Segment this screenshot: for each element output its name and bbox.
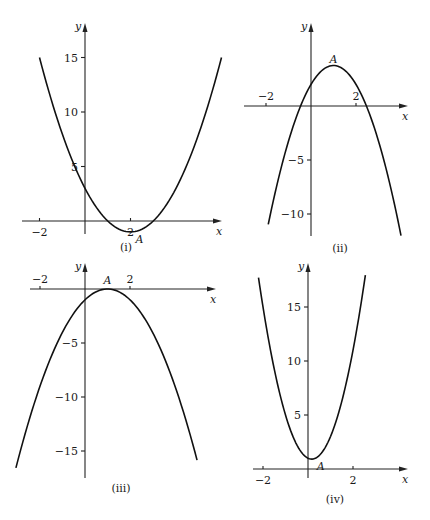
parabola-curve [16,289,197,468]
x-tick-label: −2 [255,474,271,487]
point-a-label: A [103,274,112,287]
x-axis-arrow-icon [213,219,222,224]
x-axis-arrow-icon [399,467,408,472]
point-a-label: A [316,460,325,473]
graph-panel-3: xy−22−5−10−15A(iii) [16,260,217,495]
x-tick-label: −2 [32,273,48,286]
y-axis-arrow-icon [83,23,88,32]
graph-panel-1: xy−2251015A(i) [22,20,223,254]
point-a-label: A [329,53,338,66]
y-tick-label: 15 [64,52,78,65]
y-tick-label: −10 [281,208,304,221]
x-axis-arrow-icon [399,104,408,109]
x-axis-label: x [402,473,409,486]
graph-panel-2: xy−22−5−10A(ii) [244,20,409,255]
x-axis-label: x [402,110,409,123]
x-tick-label: 2 [350,474,357,487]
y-tick-label: −5 [62,337,78,350]
panel-label: (iv) [326,493,344,506]
x-axis-label: x [210,293,217,306]
panel-label: (iii) [111,482,130,495]
y-axis-label: y [74,260,82,273]
x-tick-label: 2 [127,273,134,286]
y-axis-label: y [74,20,82,33]
y-tick-label: 5 [294,409,301,422]
point-a-label: A [135,233,144,246]
y-tick-label: −5 [288,154,304,167]
y-tick-label: 15 [287,301,301,314]
y-axis-label: y [297,260,305,273]
y-axis-arrow-icon [309,23,314,32]
parabola-curve [40,58,222,232]
y-tick-label: −15 [55,445,78,458]
figure-four-parabolas: xy−2251015A(i)xy−22−5−10A(ii)xy−22−5−10−… [0,0,430,520]
y-axis-arrow-icon [83,263,88,272]
y-tick-label: 10 [287,355,301,368]
parabola-curve [259,275,366,459]
y-axis-label: y [300,20,308,33]
y-tick-label: 10 [64,106,78,119]
x-axis-arrow-icon [207,287,216,292]
panel-label: (i) [120,241,132,254]
y-axis-arrow-icon [306,263,311,272]
x-tick-label: −2 [31,226,47,239]
y-tick-label: −10 [55,391,78,404]
x-axis-label: x [216,225,223,238]
x-tick-label: −2 [258,90,274,103]
panel-label: (ii) [332,242,348,255]
graph-panel-4: xy−2251015A(iv) [253,260,409,506]
x-tick-label: 2 [353,90,360,103]
